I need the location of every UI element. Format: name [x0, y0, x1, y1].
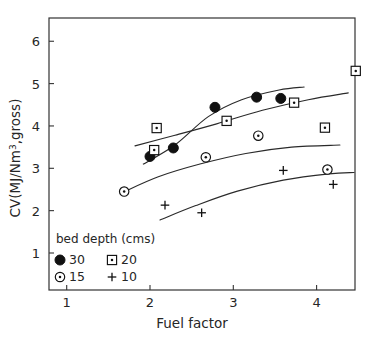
y-tick-label: 1 — [32, 246, 40, 261]
trend-line-20 — [135, 93, 348, 146]
axis-titles: Fuel factorCV(MJ/Nm3,gross) — [7, 99, 228, 331]
point-20-center-dot — [324, 126, 327, 129]
y-tick-label: 4 — [32, 119, 40, 134]
legend-label-30: 30 — [69, 252, 85, 267]
y-tick-label: 5 — [32, 77, 40, 92]
point-15-center-dot — [123, 190, 126, 193]
legend-label-10: 10 — [121, 269, 137, 284]
y-tick-label: 3 — [32, 161, 40, 176]
point-20-center-dot — [153, 149, 156, 152]
legend-title: bed depth (cms) — [56, 232, 155, 246]
x-tick-label: 1 — [63, 295, 71, 310]
point-15-center-dot — [257, 134, 260, 137]
point-20-center-dot — [355, 70, 358, 73]
scatter-plot-svg: 1234561234 bed depth (cms)30201510 Fuel … — [0, 0, 369, 344]
point-15-center-dot — [326, 168, 329, 171]
series-20 — [150, 66, 361, 154]
x-tick-label: 3 — [229, 295, 237, 310]
point-20-center-dot — [155, 127, 158, 130]
legend-label-20: 20 — [121, 252, 137, 267]
data-points — [119, 66, 360, 217]
legend-label-15: 15 — [69, 269, 85, 284]
y-axis-title-tail: ,gross) — [7, 99, 23, 145]
x-tick-label: 4 — [312, 295, 320, 310]
point-20-center-dot — [293, 101, 296, 104]
point-30 — [276, 93, 286, 103]
legend-marker-15-center-dot — [59, 276, 62, 279]
x-axis-title: Fuel factor — [156, 315, 228, 331]
legend-item-10: 10 — [108, 269, 137, 284]
y-tick-label: 6 — [32, 34, 40, 49]
point-20-center-dot — [225, 120, 228, 123]
legend-marker-30 — [55, 255, 65, 265]
point-30 — [252, 92, 262, 102]
point-30 — [168, 143, 178, 153]
y-axis-title: CV(MJ/Nm3,gross) — [7, 99, 23, 218]
legend-item-20: 20 — [107, 252, 137, 267]
series-15 — [119, 131, 332, 196]
chart-legend: bed depth (cms)30201510 — [55, 232, 155, 284]
point-15-center-dot — [205, 156, 208, 159]
axis-ticks — [49, 41, 317, 290]
point-30 — [210, 102, 220, 112]
legend-item-15: 15 — [55, 269, 85, 284]
trend-line-10 — [160, 173, 354, 220]
x-tick-label: 2 — [146, 295, 154, 310]
chart-figure: 1234561234 bed depth (cms)30201510 Fuel … — [0, 0, 369, 344]
y-axis-title-main: CV(MJ/Nm — [7, 150, 23, 217]
y-tick-label: 2 — [32, 204, 40, 219]
legend-item-30: 30 — [55, 252, 85, 267]
legend-marker-20-center-dot — [111, 259, 114, 262]
